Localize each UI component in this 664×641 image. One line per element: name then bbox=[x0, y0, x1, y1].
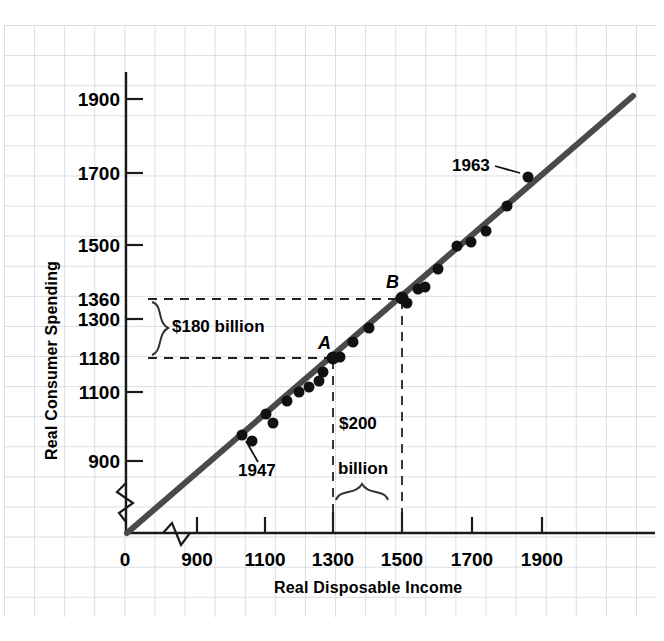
x-tick-label-1500: 1500 bbox=[368, 550, 436, 569]
data-point bbox=[237, 430, 248, 441]
rise-annotation-label: $180 billion bbox=[172, 318, 265, 335]
data-point bbox=[481, 226, 492, 237]
year-label-1947: 1947 bbox=[238, 462, 276, 479]
data-point bbox=[402, 298, 413, 309]
x-axis-title: Real Disposable Income bbox=[274, 580, 462, 596]
data-point bbox=[318, 367, 329, 378]
data-point bbox=[294, 387, 305, 398]
data-point bbox=[452, 241, 463, 252]
data-point bbox=[335, 352, 346, 363]
data-point bbox=[268, 418, 279, 429]
data-point bbox=[466, 237, 477, 248]
data-point bbox=[247, 436, 258, 447]
data-point bbox=[364, 323, 375, 334]
chart-page: 1900 1700 1500 1360 1300 1180 1100 900 0… bbox=[0, 0, 664, 641]
data-point-1963 bbox=[523, 172, 534, 183]
data-point bbox=[261, 409, 272, 420]
y-tick-label-1500: 1500 bbox=[40, 236, 120, 255]
data-point bbox=[502, 201, 513, 212]
point-a-label: A bbox=[318, 334, 331, 352]
y-tick-label-1700: 1700 bbox=[40, 164, 120, 183]
point-b-label: B bbox=[386, 273, 399, 291]
y-tick-marks bbox=[126, 99, 143, 461]
origin-label: 0 bbox=[95, 550, 155, 569]
data-point bbox=[304, 382, 315, 393]
data-point bbox=[433, 264, 444, 275]
x-tick-label-900: 900 bbox=[167, 550, 227, 569]
leader-line-1963 bbox=[495, 166, 520, 173]
x-tick-label-1900: 1900 bbox=[508, 550, 576, 569]
x-tick-label-1100: 1100 bbox=[231, 550, 299, 569]
x-tick-marks bbox=[197, 512, 542, 533]
run-annotation-label-line2: billion bbox=[338, 460, 388, 477]
year-label-1963: 1963 bbox=[452, 157, 490, 174]
rise-brace bbox=[152, 302, 168, 355]
data-point bbox=[282, 396, 293, 407]
data-point bbox=[348, 337, 359, 348]
y-tick-label-1900: 1900 bbox=[40, 90, 120, 109]
x-tick-label-1300: 1300 bbox=[299, 550, 367, 569]
run-annotation-label-line1: $200 bbox=[339, 415, 377, 432]
run-brace bbox=[336, 484, 388, 500]
y-axis-title: Real Consumer Spending bbox=[44, 261, 60, 460]
data-point bbox=[420, 282, 431, 293]
x-tick-label-1700: 1700 bbox=[438, 550, 506, 569]
